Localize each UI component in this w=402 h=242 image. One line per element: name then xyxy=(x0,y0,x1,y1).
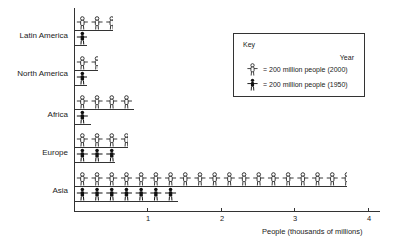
legend-label-1950: = 200 million people (1950) xyxy=(263,81,348,88)
x-axis-title: People (thousands of millions) xyxy=(262,227,362,236)
filled-person-icon xyxy=(75,187,178,201)
bar-latin-america-1950 xyxy=(75,31,87,46)
bar-europe-1950 xyxy=(75,148,115,163)
x-tick-1 xyxy=(147,208,148,212)
x-tick-4 xyxy=(368,208,369,212)
x-axis xyxy=(74,211,380,212)
bar-africa-1950 xyxy=(75,110,91,125)
bar-north-america-2000 xyxy=(75,56,98,71)
region-label-europe: Europe xyxy=(0,148,68,157)
open-person-icon xyxy=(75,95,134,109)
filled-person-icon xyxy=(75,71,87,85)
bar-europe-2000 xyxy=(75,133,128,148)
bar-latin-america-2000 xyxy=(75,16,113,31)
region-label-north-america: North America xyxy=(0,69,68,78)
legend-title: Key xyxy=(243,41,255,48)
filled-person-icon xyxy=(246,78,259,91)
open-person-icon xyxy=(246,63,259,76)
filled-person-icon xyxy=(75,110,91,124)
legend-key: Key Year = 200 million people (2000) = 2… xyxy=(233,33,365,97)
x-tick-3 xyxy=(294,208,295,212)
legend-entry-2000: = 200 million people (2000) xyxy=(246,63,348,76)
open-person-icon xyxy=(75,172,347,186)
region-label-africa: Africa xyxy=(0,110,68,119)
filled-person-icon xyxy=(75,31,87,45)
open-person-icon xyxy=(75,16,113,30)
legend-label-2000: = 200 million people (2000) xyxy=(263,66,348,73)
x-tick-label-2: 2 xyxy=(220,214,224,223)
x-tick-label-3: 3 xyxy=(293,214,297,223)
region-label-asia: Asia xyxy=(0,186,68,195)
legend-entry-1950: = 200 million people (1950) xyxy=(246,78,348,91)
open-person-icon xyxy=(75,56,98,70)
bar-north-america-1950 xyxy=(75,71,87,86)
bar-asia-2000 xyxy=(75,172,347,187)
x-tick-2 xyxy=(221,208,222,212)
bar-asia-1950 xyxy=(75,187,178,202)
legend-year-header: Year xyxy=(340,54,354,61)
bar-africa-2000 xyxy=(75,95,134,110)
x-tick-label-4: 4 xyxy=(367,214,371,223)
x-tick-label-1: 1 xyxy=(146,214,150,223)
filled-person-icon xyxy=(75,148,115,162)
open-person-icon xyxy=(75,133,128,147)
region-label-latin-america: Latin America xyxy=(0,31,68,40)
